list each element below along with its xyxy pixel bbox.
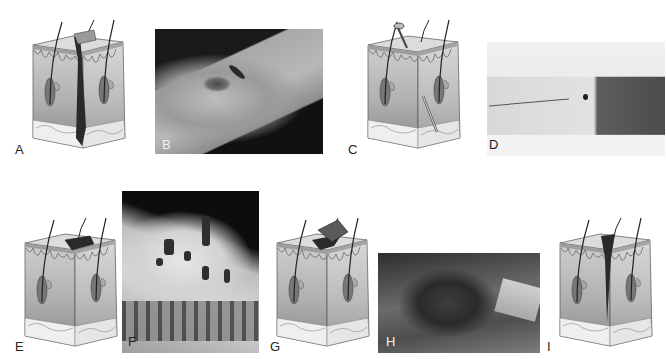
wound-mark: [202, 216, 210, 246]
wound-mark: [227, 63, 246, 80]
panel-label-i: I: [547, 340, 551, 353]
skin-puncture-illustration: [363, 20, 465, 152]
panel-i-laceration-diagram: [555, 218, 657, 350]
spine-edge: [122, 301, 259, 341]
panel-label-b: B: [162, 138, 171, 151]
finger-skin: [494, 278, 540, 322]
panel-label-g: G: [270, 340, 280, 353]
panel-f-abrasion-photo: F: [122, 191, 259, 353]
vein-mark: [489, 99, 569, 107]
panel-label-e: E: [15, 340, 24, 353]
wound-mark: [184, 251, 191, 261]
panel-d-puncture-photo: D: [487, 42, 665, 156]
wound-mark: [224, 269, 230, 283]
panel-a-incision-diagram: [28, 20, 130, 152]
panel-label-h: H: [386, 335, 395, 348]
panel-h-avulsion-photo: H: [378, 253, 540, 353]
wound-mark: [164, 239, 174, 255]
panel-label-a: A: [15, 143, 24, 156]
wound-mark: [156, 258, 163, 266]
panel-e-abrasion-diagram: [20, 218, 122, 350]
panel-label-c: C: [348, 143, 357, 156]
wound-mark: [202, 266, 209, 280]
panel-label-f: F: [128, 335, 136, 348]
skin-laceration-illustration: [555, 218, 657, 350]
panel-c-puncture-diagram: [363, 20, 465, 152]
panel-label-d: D: [489, 138, 498, 151]
skin-incision-illustration: [28, 20, 130, 152]
skin-avulsion-illustration: [272, 218, 374, 350]
wound-mark: [583, 94, 588, 100]
skin-abrasion-illustration: [20, 218, 122, 350]
panel-b-incision-photo: B: [155, 29, 323, 154]
panel-g-avulsion-diagram: [272, 218, 374, 350]
